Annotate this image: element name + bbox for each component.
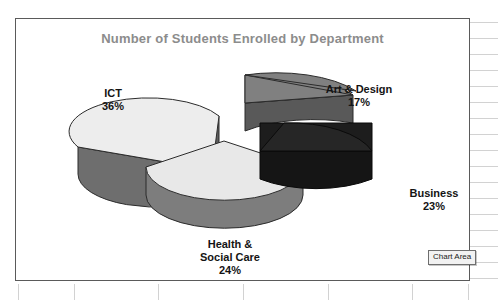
- grid-line-horizontal: [470, 38, 498, 39]
- spreadsheet-canvas: Number of Students Enrolled by Departmen…: [0, 0, 498, 300]
- chart-area-tooltip: Chart Area: [428, 250, 476, 265]
- grid-line-horizontal: [470, 22, 498, 23]
- slice-label-art-design-value: 17%: [304, 96, 414, 109]
- grid-line-horizontal: [470, 102, 498, 103]
- grid-line-horizontal: [470, 246, 498, 247]
- slice-label-health-social-care-value: 24%: [166, 264, 294, 277]
- grid-line-horizontal: [470, 54, 498, 55]
- grid-line-vertical: [412, 284, 413, 300]
- grid-line-horizontal: [470, 118, 498, 119]
- grid-line-horizontal: [470, 166, 498, 167]
- slice-label-health-social-care-name-line1: Health &: [166, 238, 294, 251]
- grid-line-horizontal: [470, 230, 498, 231]
- grid-line-horizontal: [470, 150, 498, 151]
- slice-label-art-design: Art & Design 17%: [304, 83, 414, 109]
- grid-line-vertical: [243, 284, 244, 300]
- slice-label-ict: ICT 36%: [78, 87, 148, 113]
- grid-line-horizontal: [470, 70, 498, 71]
- grid-line-horizontal: [470, 182, 498, 183]
- grid-line-horizontal: [470, 134, 498, 135]
- slice-label-business-name: Business: [390, 187, 478, 200]
- slice-label-health-social-care: Health & Social Care 24%: [166, 238, 294, 277]
- grid-line-horizontal: [470, 278, 498, 279]
- grid-line-vertical: [468, 284, 469, 300]
- slice-label-ict-name: ICT: [78, 87, 148, 100]
- slice-label-ict-value: 36%: [78, 100, 148, 113]
- grid-line-vertical: [74, 284, 75, 300]
- grid-line-vertical: [18, 284, 19, 300]
- grid-line-vertical: [158, 284, 159, 300]
- slice-label-business: Business 23%: [390, 187, 478, 213]
- pie-slice-business[interactable]: [260, 123, 372, 189]
- grid-line-horizontal: [470, 214, 498, 215]
- slice-label-business-value: 23%: [390, 200, 478, 213]
- grid-line-horizontal: [470, 86, 498, 87]
- slice-label-art-design-name: Art & Design: [304, 83, 414, 96]
- chart-area[interactable]: Number of Students Enrolled by Departmen…: [15, 18, 470, 281]
- slice-label-health-social-care-name-line2: Social Care: [166, 251, 294, 264]
- grid-line-vertical: [328, 284, 329, 300]
